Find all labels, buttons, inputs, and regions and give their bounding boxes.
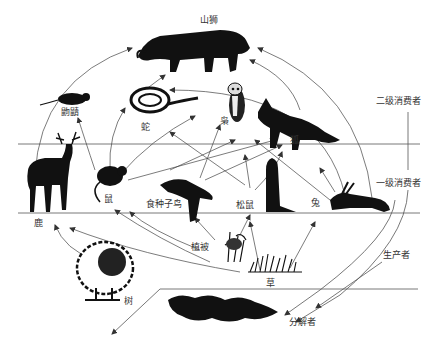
food-web-diagram: 山狮 鼩鼱 蛇 枭 狐 鹿 鼠 食种子鸟 松鼠 兔 植被 草 树 分解者 二级消… <box>0 0 436 349</box>
label-decomposers: 分解者 <box>289 317 316 327</box>
label-producers: 生产者 <box>383 250 410 260</box>
decomposers-icon <box>168 295 278 321</box>
label-deer: 鹿 <box>34 218 43 228</box>
feeding-arrows <box>35 48 372 272</box>
grass-icon <box>248 254 302 272</box>
label-squirrel: 松鼠 <box>236 200 254 210</box>
label-vegetation: 植被 <box>191 242 209 252</box>
label-rabbit: 兔 <box>311 198 320 208</box>
shrew-icon <box>40 93 90 105</box>
snake-icon <box>131 88 198 112</box>
vegetation-icon <box>225 232 246 262</box>
label-seed-bird: 食种子鸟 <box>146 199 182 209</box>
label-shrew: 鼩鼱 <box>61 107 79 117</box>
label-primary-consumers: 一级消费者 <box>376 178 421 188</box>
label-owl: 枭 <box>220 116 229 126</box>
label-secondary-consumers: 二级消费者 <box>376 96 421 106</box>
label-fox: 狐 <box>290 135 299 145</box>
tree-icon <box>77 242 133 300</box>
fox-icon <box>258 98 340 150</box>
level-connectors <box>285 112 408 322</box>
label-snake: 蛇 <box>141 122 150 132</box>
diagram-graphics <box>0 0 436 349</box>
label-grass: 草 <box>266 278 275 288</box>
owl-icon <box>228 83 245 122</box>
label-tree: 树 <box>124 296 133 306</box>
label-mountain-lion: 山狮 <box>200 15 218 25</box>
mountain-lion-icon <box>137 30 250 72</box>
squirrel-icon <box>266 158 296 212</box>
label-mouse: 鼠 <box>104 194 113 204</box>
